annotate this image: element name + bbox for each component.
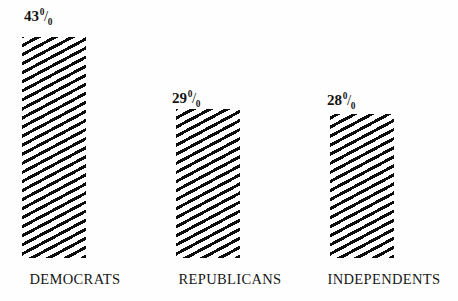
percent-sign-independents: 0/0 xyxy=(343,93,356,108)
value-label-independents: 280/0 xyxy=(327,93,355,108)
percent-sign-democrats: 0/0 xyxy=(40,9,53,24)
percent-denominator-independents: 0 xyxy=(351,101,356,111)
category-label-democrats: DEMOCRATS xyxy=(30,272,121,287)
value-number-democrats: 43 xyxy=(24,8,39,24)
value-label-republicans: 290/0 xyxy=(172,91,200,106)
percent-denominator-democrats: 0 xyxy=(48,17,53,27)
value-label-democrats: 430/0 xyxy=(24,9,52,24)
bar-democrats xyxy=(22,37,86,258)
percent-sign-republicans: 0/0 xyxy=(188,91,201,106)
bar-group-democrats xyxy=(22,37,86,258)
plot-area: 430/0 DEMOCRATS 290/0 REPUBLICANS 280/0 … xyxy=(0,0,458,301)
bar-republicans xyxy=(176,109,240,258)
bar-group-independents xyxy=(330,114,394,258)
bar-group-republicans xyxy=(176,109,240,258)
category-label-republicans: REPUBLICANS xyxy=(179,272,282,287)
value-number-republicans: 29 xyxy=(172,90,187,106)
category-label-independents: INDEPENDENTS xyxy=(328,272,441,287)
bar-independents xyxy=(330,114,394,258)
bar-chart: 430/0 DEMOCRATS 290/0 REPUBLICANS 280/0 … xyxy=(0,0,458,301)
value-number-independents: 28 xyxy=(327,92,342,108)
percent-denominator-republicans: 0 xyxy=(196,99,201,109)
